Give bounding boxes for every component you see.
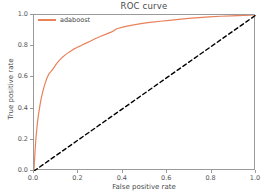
- x-tick-mark: [33, 170, 34, 173]
- x-tick-mark: [166, 170, 167, 173]
- x-tick-mark: [255, 170, 256, 173]
- legend: adaboost: [38, 16, 90, 24]
- plot-area: [33, 14, 255, 170]
- x-axis-label: False positive rate: [33, 183, 255, 191]
- y-tick-mark: [30, 45, 33, 46]
- x-tick-label: 0.4: [117, 174, 127, 182]
- x-tick-label: 1.0: [250, 174, 260, 182]
- y-tick-label: 0.0: [9, 166, 28, 174]
- y-axis-label: True positive rate: [7, 44, 15, 134]
- x-tick-mark: [122, 170, 123, 173]
- x-tick-label: 0.8: [205, 174, 215, 182]
- x-tick-label: 0.2: [72, 174, 82, 182]
- y-tick-label: 0.2: [9, 135, 28, 143]
- roc-curve-figure: ROC curve adaboost 0.00.20.40.60.81.0 0.…: [0, 0, 269, 196]
- y-tick-mark: [30, 76, 33, 77]
- x-tick-mark: [211, 170, 212, 173]
- y-tick-mark: [30, 139, 33, 140]
- y-tick-mark: [30, 108, 33, 109]
- plot-canvas: [34, 15, 256, 171]
- x-tick-label: 0.6: [161, 174, 171, 182]
- legend-label-adaboost: adaboost: [60, 16, 90, 24]
- y-tick-label: 1.0: [9, 10, 28, 18]
- chart-title: ROC curve: [33, 1, 255, 11]
- y-tick-mark: [30, 14, 33, 15]
- series-group: [34, 15, 256, 171]
- legend-line-swatch-adaboost: [38, 19, 56, 21]
- x-tick-label: 0.0: [28, 174, 38, 182]
- series-line-chance: [34, 15, 256, 171]
- y-tick-mark: [30, 170, 33, 171]
- x-tick-mark: [77, 170, 78, 173]
